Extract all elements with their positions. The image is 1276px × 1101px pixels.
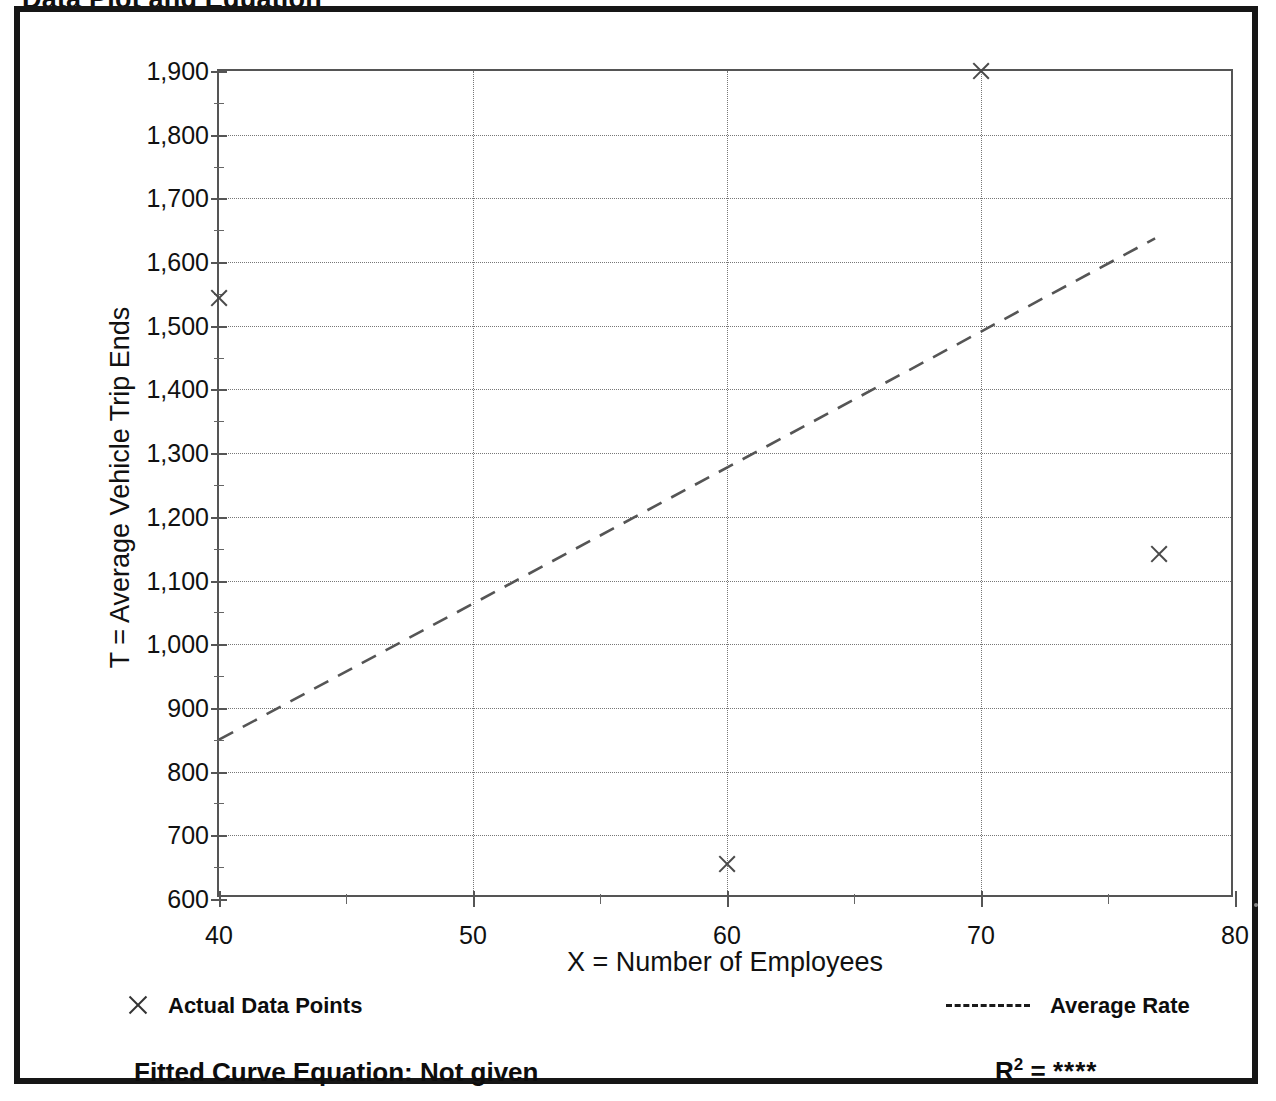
x-tick-minor bbox=[600, 894, 601, 904]
y-tick-minor bbox=[214, 103, 224, 104]
x-tick-major bbox=[473, 891, 475, 907]
scan-artifact-speck bbox=[1254, 903, 1258, 907]
x-axis-title: X = Number of Employees bbox=[217, 947, 1233, 978]
y-tick-minor bbox=[214, 230, 224, 231]
r-squared-equals: = bbox=[1023, 1056, 1053, 1086]
y-tick-minor bbox=[214, 612, 224, 613]
gridline-horizontal bbox=[219, 326, 1231, 327]
x-tick-label: 40 bbox=[205, 921, 233, 950]
y-tick-major bbox=[211, 644, 227, 646]
x-tick-major bbox=[981, 891, 983, 907]
gridline-horizontal bbox=[219, 708, 1231, 709]
x-tick-label: 50 bbox=[459, 921, 487, 950]
figure-frame: 6007008009001,0001,1001,2001,3001,4001,5… bbox=[14, 6, 1258, 1084]
y-axis-title: T = Average Vehicle Trip Ends bbox=[105, 178, 136, 798]
y-tick-minor bbox=[214, 485, 224, 486]
y-tick-minor bbox=[214, 803, 224, 804]
x-marker-icon bbox=[126, 993, 150, 1017]
y-tick-minor bbox=[214, 867, 224, 868]
gridline-horizontal bbox=[219, 835, 1231, 836]
y-tick-minor bbox=[214, 358, 224, 359]
y-tick-minor bbox=[214, 421, 224, 422]
gridline-horizontal bbox=[219, 262, 1231, 263]
y-tick-label: 1,800 bbox=[89, 120, 209, 149]
gridline-horizontal bbox=[219, 772, 1231, 773]
gridline-horizontal bbox=[219, 517, 1231, 518]
dashed-line-icon bbox=[946, 1004, 1030, 1007]
y-tick-minor bbox=[214, 549, 224, 550]
gridline-vertical bbox=[981, 71, 982, 895]
plot-area: 6007008009001,0001,1001,2001,3001,4001,5… bbox=[217, 69, 1233, 897]
fitted-curve-equation: Fitted Curve Equation: Not given bbox=[134, 1057, 538, 1088]
data-point-marker bbox=[716, 853, 738, 875]
y-tick-major bbox=[211, 262, 227, 264]
legend-average-rate-label: Average Rate bbox=[1050, 993, 1190, 1019]
y-tick-label: 1,900 bbox=[89, 57, 209, 86]
x-tick-minor bbox=[854, 894, 855, 904]
y-tick-major bbox=[211, 517, 227, 519]
data-point-marker bbox=[208, 287, 230, 309]
y-tick-major bbox=[211, 772, 227, 774]
x-tick-major bbox=[727, 891, 729, 907]
gridline-horizontal bbox=[219, 453, 1231, 454]
y-tick-major bbox=[211, 389, 227, 391]
y-tick-label: 600 bbox=[89, 885, 209, 914]
y-tick-major bbox=[211, 71, 227, 73]
data-point-marker bbox=[970, 60, 992, 82]
gridline-vertical bbox=[727, 71, 728, 895]
y-tick-minor bbox=[214, 740, 224, 741]
r-squared-symbol: R bbox=[995, 1056, 1014, 1086]
x-tick-minor bbox=[1108, 894, 1109, 904]
gridline-horizontal bbox=[219, 135, 1231, 136]
y-tick-major bbox=[211, 835, 227, 837]
y-tick-major bbox=[211, 708, 227, 710]
y-tick-minor bbox=[214, 167, 224, 168]
gridline-vertical bbox=[473, 71, 474, 895]
y-tick-major bbox=[211, 453, 227, 455]
y-tick-label: 700 bbox=[89, 821, 209, 850]
gridline-horizontal bbox=[219, 644, 1231, 645]
y-tick-major bbox=[211, 198, 227, 200]
gridline-horizontal bbox=[219, 581, 1231, 582]
x-tick-label: 70 bbox=[967, 921, 995, 950]
gridline-horizontal bbox=[219, 198, 1231, 199]
x-tick-label: 80 bbox=[1221, 921, 1249, 950]
y-tick-minor bbox=[214, 676, 224, 677]
r-squared-stars: **** bbox=[1053, 1056, 1097, 1086]
y-tick-major bbox=[211, 581, 227, 583]
data-point-marker bbox=[1148, 543, 1170, 565]
x-tick-minor bbox=[346, 894, 347, 904]
gridline-horizontal bbox=[219, 389, 1231, 390]
x-tick-major bbox=[1235, 891, 1237, 907]
x-tick-label: 60 bbox=[713, 921, 741, 950]
r-squared-value: R2 = **** bbox=[995, 1055, 1097, 1087]
y-tick-major bbox=[211, 135, 227, 137]
r-squared-exponent: 2 bbox=[1014, 1055, 1023, 1074]
y-tick-major bbox=[211, 326, 227, 328]
x-tick-major bbox=[219, 891, 221, 907]
legend-actual-data-points-label: Actual Data Points bbox=[168, 993, 362, 1019]
